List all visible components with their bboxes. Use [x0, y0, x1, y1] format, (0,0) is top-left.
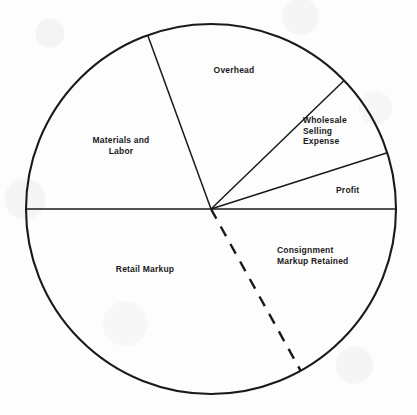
- slice-label-overhead: Overhead: [195, 65, 273, 76]
- slice-label-consignment-markup-retained: Consignment Markup Retained: [277, 245, 377, 266]
- slice-label-wholesale-selling-expense: Wholesale Selling Expense: [303, 115, 373, 147]
- slice-label-retail-markup: Retail Markup: [99, 264, 191, 275]
- chart-geometry: [26, 24, 396, 394]
- pie-chart-figure: Materials and Labor Overhead Wholesale S…: [0, 0, 417, 415]
- retail-consignment-divider: [211, 209, 301, 371]
- materials-overhead-divider: [148, 35, 211, 209]
- wholesale-profit-divider: [211, 153, 387, 209]
- slice-label-materials-and-labor: Materials and Labor: [74, 135, 168, 156]
- pie-chart-svg: [0, 0, 417, 415]
- slice-label-profit: Profit: [336, 185, 386, 196]
